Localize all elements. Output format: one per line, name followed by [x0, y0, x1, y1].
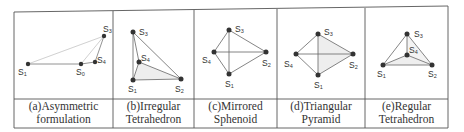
label-b-s2: S2 [175, 84, 184, 94]
label-d-s2: S2 [349, 60, 358, 70]
label-a-s0: S0 [76, 67, 85, 77]
caption-d-line1: (d)Triangular [277, 100, 365, 113]
label-e-s3: S3 [414, 29, 423, 39]
node-a-s1 [26, 62, 30, 66]
panel-c-mirrored-sphenoid-diagram: S3 S4 S2 S1 [202, 24, 271, 89]
label-a-s1: S1 [18, 67, 27, 77]
panel-e-regular-tetrahedron-diagram: S3 S4 S1 S2 [377, 29, 437, 79]
caption-d: (d)Triangular Pyramid [277, 100, 365, 128]
label-d-s4: S4 [284, 59, 293, 69]
node-c-s3 [227, 28, 232, 33]
caption-e-line1: (e)Regular [365, 100, 448, 113]
node-e-s3 [405, 32, 410, 37]
caption-a-line2: formulation [14, 113, 113, 126]
caption-e: (e)Regular Tetrahedron [365, 100, 448, 128]
label-d-s3: S3 [324, 27, 333, 37]
panel-d-triangular-pyramid-diagram: S3 S4 S2 S1 [284, 27, 358, 90]
label-c-s3: S3 [235, 24, 244, 34]
node-e-s1 [381, 63, 386, 68]
node-b-s3 [131, 30, 136, 35]
label-a-s4: S4 [97, 55, 106, 65]
caption-a: (a)Asymmetric formulation [14, 100, 113, 128]
panel-b-irregular-tetrahedron-diagram: S3 S4 S1 S2 [128, 27, 184, 94]
caption-c: (c)Mirrored Sphenoid [194, 100, 277, 128]
label-e-s2: S2 [428, 69, 437, 79]
node-c-s4 [212, 50, 217, 55]
node-d-s4 [294, 52, 299, 57]
node-a-s0 [79, 62, 83, 66]
caption-a-line1: (a)Asymmetric [14, 100, 113, 113]
label-c-s4: S4 [202, 55, 211, 65]
label-c-s2: S2 [262, 58, 271, 68]
node-a-s3 [102, 34, 106, 38]
node-d-s3 [316, 32, 321, 37]
node-c-s1 [227, 72, 232, 77]
label-e-s1: S1 [377, 69, 386, 79]
caption-b: (b)Irregular Tetrahedron [113, 100, 194, 128]
label-b-s1: S1 [128, 84, 137, 94]
caption-d-line2: Pyramid [277, 113, 365, 126]
caption-e-line2: Tetrahedron [365, 113, 448, 126]
caption-b-line2: Tetrahedron [113, 113, 194, 126]
caption-b-line1: (b)Irregular [113, 100, 194, 113]
node-b-s1 [131, 78, 136, 83]
caption-c-line1: (c)Mirrored [194, 100, 277, 113]
panel-a-asymmetric-diagram: S1 S0 S4 S3 [18, 24, 112, 77]
label-a-s3: S3 [103, 24, 112, 34]
node-c-s2 [264, 50, 269, 55]
label-c-s1: S1 [225, 79, 234, 89]
label-b-s4: S4 [141, 53, 150, 63]
node-e-s2 [430, 63, 435, 68]
label-d-s1: S1 [314, 80, 323, 90]
label-b-s3: S3 [139, 27, 148, 37]
node-d-s2 [351, 52, 356, 57]
node-b-s2 [179, 77, 184, 82]
node-d-s1 [316, 73, 321, 78]
caption-c-line2: Sphenoid [194, 113, 277, 126]
